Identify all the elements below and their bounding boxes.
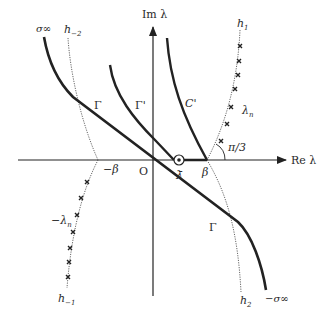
- minus-sigma-infinity-label: −σ∞: [265, 294, 289, 304]
- spectral-contour-diagram: Im λ Re λ O σ∞ −σ∞ Γ Γ Γ' C' h1 h−2 h−1 …: [0, 0, 328, 318]
- minus-lambda-n-label: −λn: [51, 215, 72, 229]
- eigenvalue-markers-positive: [219, 44, 242, 143]
- h1-label: h1: [237, 18, 249, 32]
- lambda-bar-label: λ̄: [176, 170, 183, 181]
- c-prime-label: C': [185, 98, 196, 109]
- origin-label: O: [139, 166, 148, 177]
- h2-label: h2: [240, 295, 252, 309]
- minus-beta-label: −β: [103, 164, 119, 175]
- h-minus-1-label: h−1: [58, 293, 75, 307]
- contour-gamma: [44, 37, 266, 290]
- contour-gamma-prime: [110, 65, 174, 160]
- gamma-label-upper: Γ: [94, 100, 102, 111]
- gamma-label-lower: Γ: [209, 222, 217, 233]
- angle-arc-pi-over-3: [216, 144, 225, 160]
- lambda-bar-dot: [177, 158, 181, 162]
- diagram-graphics: [0, 0, 328, 318]
- h-minus-2-label: h−2: [64, 24, 81, 38]
- real-axis-label: Re λ: [291, 155, 316, 166]
- beta-label: β: [202, 167, 208, 178]
- lambda-n-label: λn: [242, 105, 254, 119]
- angle-label: π/3: [228, 142, 246, 153]
- sigma-infinity-label: σ∞: [36, 24, 51, 34]
- gamma-prime-label: Γ': [135, 100, 146, 111]
- imaginary-axis-label: Im λ: [142, 9, 167, 20]
